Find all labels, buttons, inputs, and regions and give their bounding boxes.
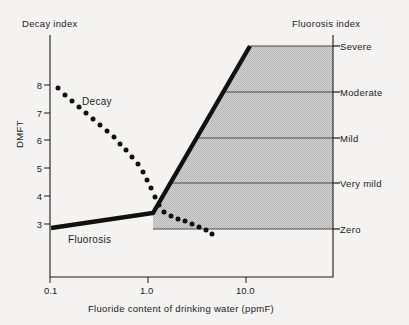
chart-canvas — [0, 0, 409, 325]
y-axis-ticks — [44, 85, 50, 224]
fluorosis-shaded-region — [153, 46, 333, 229]
x-axis-ticks — [50, 277, 246, 283]
fluorosis-axis-ticks — [333, 46, 340, 229]
fluoride-decay-fluorosis-chart: Decay index Fluorosis index DMFT Fluorid… — [0, 0, 409, 325]
